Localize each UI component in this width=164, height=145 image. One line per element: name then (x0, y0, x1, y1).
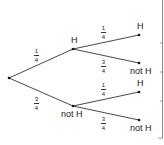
leaf-node-notH-notH (138, 119, 141, 122)
node-notH (72, 105, 75, 108)
fraction-bar (34, 55, 39, 56)
node-H (72, 48, 75, 51)
prob-notH-H: 1 4 (101, 82, 106, 97)
root-node (8, 77, 11, 80)
prob-H-notH: 3 4 (101, 59, 106, 74)
prob-denominator: 4 (35, 105, 38, 111)
fraction-bar (34, 103, 39, 104)
node-label-notH: not H (61, 110, 83, 119)
branch-root-notH (9, 78, 73, 106)
prob-numerator: 3 (102, 116, 105, 122)
branch-notH-notH (73, 106, 139, 120)
node-label-H: H (71, 36, 78, 45)
fraction-bar (101, 32, 106, 33)
branch-root-H (9, 49, 73, 78)
leaf-label-notH-H: H (137, 79, 144, 88)
leaf-node-notH-H (138, 91, 141, 94)
prob-denominator: 4 (102, 125, 105, 131)
prob-numerator: 1 (35, 48, 38, 54)
prob-root-notH: 3 4 (34, 96, 39, 111)
prob-denominator: 4 (102, 91, 105, 97)
prob-numerator: 1 (102, 82, 105, 88)
prob-root-H: 1 4 (34, 48, 39, 63)
prob-H-H: 1 4 (101, 25, 106, 40)
fraction-bar (101, 123, 106, 124)
branch-notH-H (73, 92, 139, 106)
leaf-label-H-H: H (137, 22, 144, 31)
prob-numerator: 1 (102, 25, 105, 31)
fraction-bar (101, 89, 106, 90)
prob-denominator: 4 (35, 57, 38, 63)
leaf-node-H-H (138, 34, 141, 37)
prob-numerator: 3 (102, 59, 105, 65)
leaf-node-H-notH (138, 62, 141, 65)
prob-numerator: 3 (35, 96, 38, 102)
leaf-label-H-notH: not H (130, 67, 152, 76)
leaf-label-notH-notH: not H (130, 124, 152, 133)
prob-notH-notH: 3 4 (101, 116, 106, 131)
prob-denominator: 4 (102, 34, 105, 40)
fraction-bar (101, 66, 106, 67)
branch-H-notH (73, 49, 139, 63)
branch-H-H (73, 35, 139, 49)
prob-denominator: 4 (102, 68, 105, 74)
